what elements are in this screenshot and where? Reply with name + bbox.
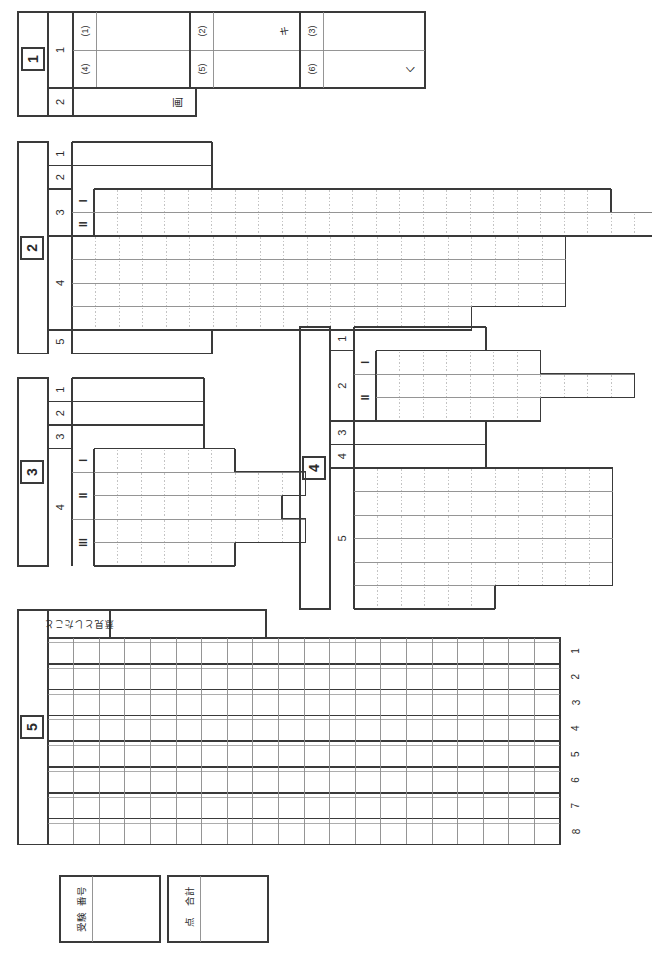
section-1-row-label-2: 2 [54,99,66,105]
section-1-marker-3: (3) [307,25,317,36]
section-3-sub-label-II: II [78,493,89,499]
section-2-sub-label-I: I [78,199,89,202]
section-2-row-label-5: 5 [54,339,66,345]
examinee-number-box [60,876,160,942]
section-1-answer-6: く [405,64,416,74]
section-1-marker-4: (4) [80,63,90,74]
section-4-sub-label-I: I [360,361,371,364]
section-2-row-label-3: 3 [54,209,66,215]
section-3-row-label-2: 2 [54,410,66,416]
section-2-sub-label-II: II [78,221,89,227]
section-4-badge-number: 4 [306,464,322,472]
section-5-row-number-2: 2 [571,673,582,679]
section-5-row-number-8: 8 [571,828,582,834]
section-1-marker-1: (1) [80,25,90,36]
section-3-row-label-1: 1 [54,387,66,393]
section-3-row-label-3: 3 [54,434,66,440]
section-5-row-number-1: 1 [571,648,582,654]
section-2-row-label-4: 4 [54,280,66,286]
section-3-sub-label-I: I [78,459,89,462]
total-score-box [168,876,268,942]
section-4-row-label-2: 2 [336,383,348,389]
section-1-marker-6: (6) [307,63,317,74]
section-3-badge-number: 3 [24,468,40,476]
section-5-row-number-6: 6 [571,777,582,783]
section-4-row-label-4: 4 [336,453,348,459]
section-5-row-number-3: 3 [571,699,582,705]
section-1-row-label-1: 1 [54,47,66,53]
total-score-label-line1: 合計 [184,886,195,906]
section-5-badge-number: 5 [24,723,40,731]
section-4-row-label-5: 5 [336,535,348,541]
section-1-marker-5: (5) [197,63,207,74]
section-1-row2-answer: 画 [172,97,184,108]
section-1-marker-2: (2) [197,25,207,36]
section-2-row-label-2: 2 [54,174,66,180]
section-1-badge-number: 1 [25,55,41,63]
examinee-number-label-line2: 受験 [76,912,87,932]
section-4-row-label-1: 1 [336,336,348,342]
section-5-header-label: 意見としたこと [44,619,114,630]
section-4-row-label-3: 3 [336,430,348,436]
section-2-badge-number: 2 [24,244,40,252]
section-4-sub-label-II: II [360,395,371,401]
section-3-sub-label-III: III [78,538,89,547]
total-score-label-line2: 点 [184,917,195,927]
section-5-row-number-4: 4 [571,725,582,731]
section-3-row-label-4: 4 [54,504,66,510]
section-5-row-number-7: 7 [571,802,582,808]
section-2-row-label-1: 1 [54,151,66,157]
examinee-number-label-line1: 番号 [76,886,87,906]
answer-sheet-canvas: 112(1)(4)(2)(5)キ(3)(6)く画212345III31234II… [0,0,652,958]
answer-sheet-page: 112(1)(4)(2)(5)キ(3)(6)く画212345III31234II… [0,0,652,958]
section-1-answer-2: キ [279,26,290,36]
section-5-row-number-5: 5 [571,751,582,757]
